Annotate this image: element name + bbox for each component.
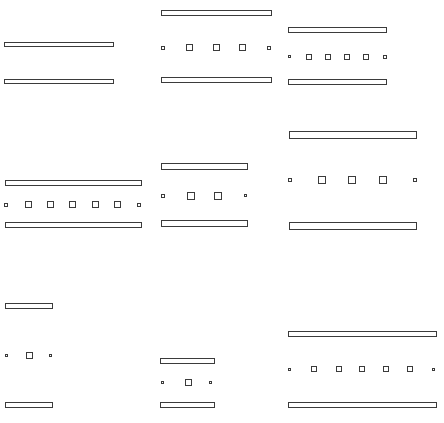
tiny-marker-top-middle (267, 46, 271, 50)
bottom-bar-middle-right (289, 222, 417, 230)
tiny-marker-top-right (383, 55, 387, 59)
bottom-bar-bottom-right (288, 402, 437, 408)
tiny-marker-middle-right (288, 178, 292, 182)
tiny-marker-middle-right (413, 178, 417, 182)
square-marker-top-middle (186, 44, 193, 51)
tiny-marker-top-right (288, 55, 291, 58)
square-marker-middle-right (318, 176, 326, 184)
top-bar-middle-right (289, 131, 417, 139)
top-bar-top-left (4, 42, 114, 47)
square-marker-middle-left (47, 201, 54, 208)
top-bar-bottom-left (5, 303, 53, 309)
bottom-bar-top-right (288, 79, 387, 85)
tiny-marker-middle-left (137, 203, 141, 207)
top-bar-top-right (288, 27, 387, 33)
tiny-marker-bottom-middle (209, 381, 212, 384)
tiny-marker-bottom-left (5, 354, 8, 357)
square-marker-bottom-right (383, 366, 389, 372)
square-marker-bottom-right (359, 366, 365, 372)
bottom-bar-top-middle (161, 77, 272, 83)
bottom-bar-bottom-middle (160, 402, 215, 408)
figure-bottom-left (0, 0, 444, 423)
square-marker-top-right (363, 54, 369, 60)
top-bar-middle-left (5, 180, 142, 186)
square-marker-top-middle (239, 44, 246, 51)
figure-top-left (0, 0, 444, 423)
bottom-bar-top-left (4, 79, 114, 84)
tiny-marker-bottom-middle (161, 381, 164, 384)
square-marker-top-right (325, 54, 331, 60)
figure-bottom-right (0, 0, 444, 423)
bottom-bar-middle-middle (161, 220, 248, 227)
figure-middle-left (0, 0, 444, 423)
tiny-marker-top-middle (161, 46, 165, 50)
figure-top-right (0, 0, 444, 423)
tiny-marker-middle-middle (161, 194, 165, 198)
square-marker-middle-left (69, 201, 76, 208)
square-marker-middle-middle (187, 192, 195, 200)
top-bar-middle-middle (161, 163, 248, 170)
square-marker-middle-middle (214, 192, 222, 200)
square-marker-middle-left (114, 201, 121, 208)
tiny-marker-bottom-right (432, 368, 435, 371)
square-marker-middle-right (348, 176, 356, 184)
tiny-marker-middle-left (4, 203, 8, 207)
top-bar-bottom-right (288, 331, 437, 337)
tiny-marker-bottom-right (288, 368, 291, 371)
figure-middle-middle (0, 0, 444, 423)
figure-grid-canvas (0, 0, 444, 423)
tiny-marker-bottom-left (49, 354, 52, 357)
square-marker-bottom-left (26, 352, 33, 359)
square-marker-bottom-right (407, 366, 413, 372)
square-marker-top-right (344, 54, 350, 60)
figure-top-middle (0, 0, 444, 423)
figure-middle-right (0, 0, 444, 423)
bottom-bar-bottom-left (5, 402, 53, 408)
square-marker-bottom-right (311, 366, 317, 372)
bottom-bar-middle-left (5, 222, 142, 228)
top-bar-bottom-middle (160, 358, 215, 364)
top-bar-top-middle (161, 10, 272, 16)
square-marker-bottom-middle (185, 379, 192, 386)
square-marker-top-middle (213, 44, 220, 51)
square-marker-top-right (306, 54, 312, 60)
square-marker-middle-left (92, 201, 99, 208)
tiny-marker-middle-middle (244, 194, 247, 197)
figure-bottom-middle (0, 0, 444, 423)
square-marker-middle-right (379, 176, 387, 184)
square-marker-middle-left (25, 201, 32, 208)
square-marker-bottom-right (336, 366, 342, 372)
